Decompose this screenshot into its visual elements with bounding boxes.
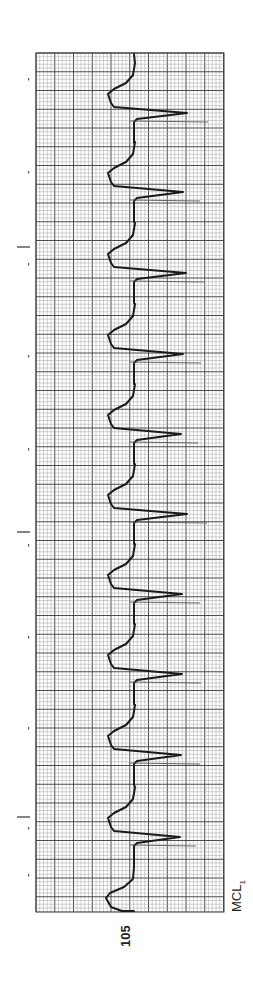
ecg-strip <box>0 0 253 983</box>
ecg-grid-paper <box>36 53 224 912</box>
strip-number-label: 105 <box>118 925 133 947</box>
strip-number: 105 <box>118 925 133 947</box>
lead-label: MCL1 <box>229 880 247 912</box>
time-marks <box>17 78 30 877</box>
lead-name: MCL <box>229 885 244 912</box>
lead-subscript: 1 <box>238 880 247 884</box>
